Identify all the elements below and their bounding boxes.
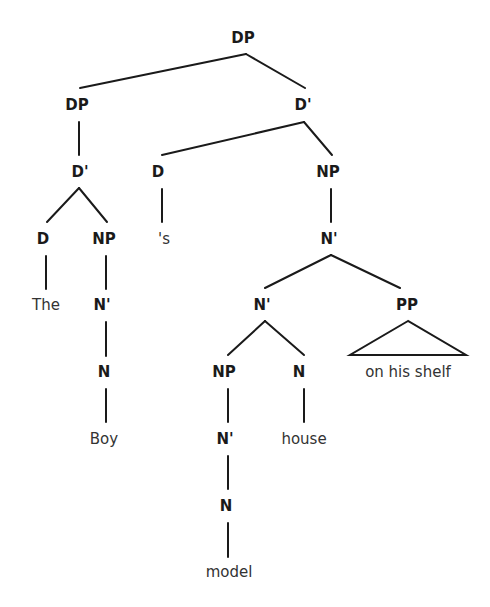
word-on-his-shelf: on his shelf [365,363,451,381]
node-n-model: N [220,497,233,515]
node-spec-dp: DP [65,96,88,114]
node-n-house: N [293,363,306,381]
word-possessive-s: 's [158,230,170,248]
node-n-bar-boy: N' [93,296,110,314]
node-np-main: NP [316,163,340,181]
node-np-model: NP [212,363,236,381]
node-d-the: D [37,230,49,248]
node-pp: PP [396,296,418,314]
word-model: model [206,563,253,581]
node-spec-d-bar: D' [71,163,88,181]
node-n-bar-inner: N' [253,296,270,314]
node-n-boy: N [98,363,111,381]
word-the: The [32,296,60,314]
word-boy: Boy [90,430,118,448]
node-d-possessive: D [152,163,164,181]
node-d-bar-top: D' [294,96,311,114]
node-n-bar-main: N' [320,230,337,248]
node-np-boy: NP [92,230,116,248]
node-n-bar-model: N' [216,430,233,448]
node-root-dp: DP [231,29,254,47]
word-house: house [281,430,326,448]
